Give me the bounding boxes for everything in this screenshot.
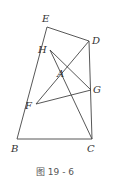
label-C: C — [87, 143, 95, 154]
segment-FG — [36, 90, 91, 104]
label-G: G — [93, 84, 101, 95]
label-A: A — [56, 68, 64, 79]
segments — [17, 27, 92, 139]
segment-HC — [50, 50, 92, 139]
point-labels: E D H A G F B C — [10, 13, 101, 154]
label-B: B — [10, 143, 18, 154]
label-F: F — [24, 100, 33, 111]
geometry-figure: E D H A G F B C 图 19 - 6 — [0, 0, 122, 184]
segment-ED — [47, 27, 89, 41]
label-E: E — [41, 13, 50, 24]
label-D: D — [91, 35, 100, 46]
figure-caption: 图 19 - 6 — [36, 167, 74, 177]
label-H: H — [37, 44, 47, 55]
